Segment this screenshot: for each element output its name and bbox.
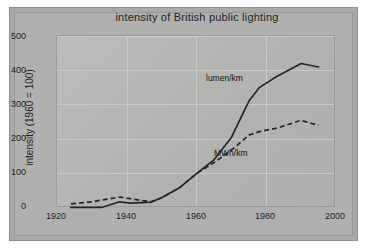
- y-tick-label-100: 100: [0, 167, 26, 177]
- chart-figure: intensity of British public lighting int…: [0, 0, 367, 249]
- series-line-mwh-km: [71, 120, 319, 204]
- x-tick-label-2000: 2000: [315, 211, 355, 221]
- plot-area: [56, 35, 335, 207]
- series-plot: [57, 36, 336, 208]
- series-line-lumen-km: [71, 64, 319, 208]
- y-tick-label-200: 200: [0, 133, 26, 143]
- y-tick-label-300: 300: [0, 99, 26, 109]
- y-tick-label-400: 400: [0, 65, 26, 75]
- x-tick-label-1960: 1960: [176, 211, 216, 221]
- y-tick-label-500: 500: [0, 31, 26, 41]
- x-tick-label-1940: 1940: [106, 211, 146, 221]
- chart-title: intensity of British public lighting: [57, 11, 337, 23]
- series-annotation-lumen-km: lumen/km: [206, 73, 243, 83]
- series-annotation-mwh-km: MWh/km: [214, 148, 248, 158]
- x-tick-label-1980: 1980: [245, 211, 285, 221]
- y-tick-label-0: 0: [0, 201, 26, 211]
- x-tick-label-1920: 1920: [36, 211, 76, 221]
